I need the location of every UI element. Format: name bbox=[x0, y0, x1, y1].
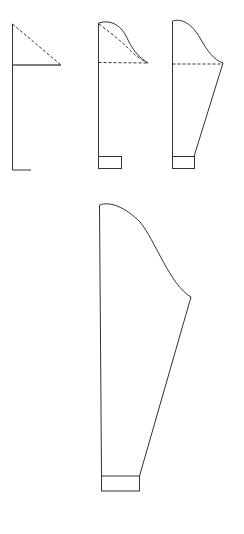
step-4-final-sleeve bbox=[100, 204, 192, 491]
step-3-outline bbox=[173, 20, 224, 168]
pattern-diagram bbox=[0, 0, 244, 534]
step-1-base-lines bbox=[13, 24, 62, 170]
step-2-cap-curve bbox=[99, 22, 149, 169]
